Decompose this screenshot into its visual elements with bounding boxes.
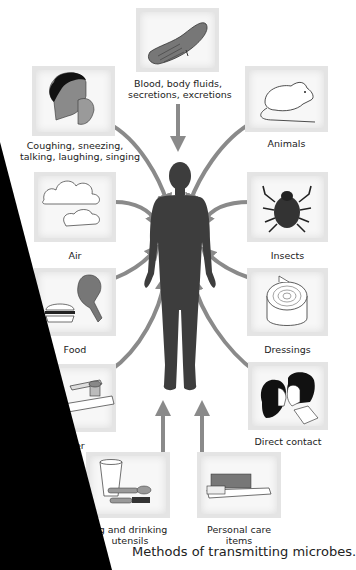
label-water: ater: [34, 440, 116, 451]
glass-spoon-icon: [86, 452, 170, 518]
source-box-coughing: [32, 66, 115, 136]
label-dressings: Dressings: [247, 344, 328, 355]
faucet-icon: [34, 364, 116, 432]
source-box-personal-care: [197, 452, 281, 518]
source-box-insects: [247, 172, 328, 242]
toothbrush-icon: [197, 452, 281, 518]
figure-caption: Methods of transmitting microbes.: [132, 544, 356, 559]
source-box-air: [34, 172, 116, 242]
clouds-icon: [34, 172, 116, 242]
label-insects: Insects: [247, 250, 328, 261]
label-direct-contact: Direct contact: [240, 436, 336, 447]
label-air: Air: [34, 250, 116, 261]
source-box-direct-contact: [248, 362, 328, 430]
label-coughing: Coughing, sneezing, talking, laughing, s…: [20, 140, 130, 162]
source-box-animals: [245, 66, 328, 132]
label-personal-care: Personal care items: [197, 524, 281, 546]
source-box-dressings: [247, 268, 328, 336]
source-box-water: [34, 364, 116, 432]
human-silhouette-icon: [140, 160, 220, 400]
bleeding-hand-icon: [136, 8, 219, 72]
coughing-person-icon: [32, 66, 115, 136]
source-box-utensils: [86, 452, 170, 518]
kissing-couple-icon: [248, 362, 328, 430]
cut-off-text-line: [0, 0, 349, 4]
label-food: Food: [34, 344, 116, 355]
label-blood: Blood, body fluids, secretions, excretio…: [128, 78, 228, 100]
source-box-blood: [136, 8, 219, 72]
source-box-food: [34, 268, 116, 336]
bandage-roll-icon: [247, 268, 328, 336]
label-animals: Animals: [245, 138, 328, 149]
label-utensils: ng and drinking utensils: [88, 524, 172, 546]
rat-icon: [245, 66, 328, 132]
burger-drumstick-icon: [34, 268, 116, 336]
tick-icon: [247, 172, 328, 242]
